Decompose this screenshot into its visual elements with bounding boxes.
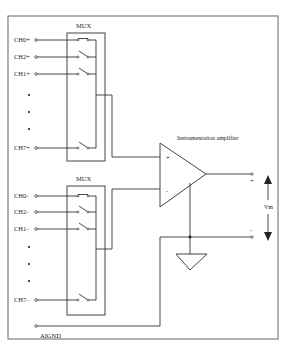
amp-plus-sign: +: [166, 154, 170, 161]
upper-mux-box: [67, 33, 105, 161]
lower-mux-label: MUX: [76, 175, 91, 182]
switch-contact-icon: [87, 211, 89, 213]
lower-mux-output-wire: [96, 189, 160, 249]
diagram-canvas: MUX CH0+ CH2+ CH1+: [0, 0, 290, 354]
switch-contact-icon: [87, 299, 89, 301]
arrow-up-icon: [264, 175, 272, 184]
switch-contact-icon: [77, 195, 79, 197]
switch-contact-icon: [77, 73, 79, 75]
upper-mux: MUX CH0+ CH2+ CH1+: [14, 22, 160, 161]
switch-contact-icon: [77, 56, 79, 58]
upper-channel-2: CH2+: [14, 51, 96, 60]
channel-label: CH0+: [14, 36, 30, 43]
switch-contact-icon: [87, 147, 89, 149]
switch-contact-icon: [87, 228, 89, 230]
channel-label: CH2-: [14, 208, 28, 215]
upper-channel-7: CH7+: [14, 142, 96, 151]
upper-mux-output-wire: [96, 95, 160, 157]
lower-channel-2: CH2-: [14, 206, 96, 215]
switch-contact-icon: [87, 195, 89, 197]
terminal-icon: [35, 39, 38, 42]
amplifier-triangle-icon: [160, 143, 206, 207]
junction-dot-icon: [189, 236, 192, 239]
terminal-icon: [35, 195, 38, 198]
ground-symbol-icon: [176, 254, 207, 270]
lower-mux: MUX CH0- CH2- CH1-: [14, 175, 160, 315]
terminal-icon: [35, 147, 38, 150]
channel-label: CH1-: [14, 225, 28, 232]
upper-ellipsis: [28, 94, 30, 130]
switch-contact-icon: [87, 73, 89, 75]
channel-label: CH1+: [14, 70, 30, 77]
instrumentation-amplifier: Instrumentation amplifier + -: [160, 135, 253, 254]
output-minus-label: -: [250, 226, 252, 233]
upper-channel-0: CH0+: [14, 36, 96, 43]
terminal-icon: [35, 211, 38, 214]
channel-label: CH0-: [14, 192, 28, 199]
switch-contact-icon: [77, 39, 79, 41]
lower-mux-box: [67, 186, 105, 315]
vm-label: Vm: [264, 204, 273, 210]
switch-contact-icon: [77, 211, 79, 213]
lower-ellipsis: [28, 246, 30, 282]
terminal-icon: [35, 299, 38, 302]
upper-mux-label: MUX: [76, 22, 91, 29]
switch-contact-icon: [87, 39, 89, 41]
switch-contact-icon: [77, 299, 79, 301]
lower-channel-7: CH7-: [14, 294, 96, 303]
aignd-wire: [37, 237, 160, 326]
arrow-down-icon: [264, 232, 272, 241]
channel-label: CH2+: [14, 53, 30, 60]
upper-channel-1: CH1+: [14, 68, 96, 77]
terminal-icon: [35, 56, 38, 59]
channel-label: CH7+: [14, 144, 30, 151]
aignd-terminal-icon: [35, 325, 38, 328]
outer-frame: [8, 16, 278, 339]
output-voltage: + - Vm: [250, 175, 273, 241]
terminal-icon: [35, 228, 38, 231]
amplifier-label: Instrumentation amplifier: [177, 135, 238, 141]
channel-label: CH7-: [14, 296, 28, 303]
output-minus-terminal-icon: [251, 236, 253, 238]
switch-contact-icon: [77, 147, 79, 149]
output-plus-terminal-icon: [251, 173, 253, 175]
switch-contact-icon: [77, 228, 79, 230]
terminal-icon: [35, 73, 38, 76]
switch-contact-icon: [87, 56, 89, 58]
amp-minus-sign: -: [166, 187, 168, 194]
lower-channel-0: CH0-: [14, 192, 96, 199]
output-plus-label: +: [250, 177, 254, 184]
aignd-label: AIGND: [40, 332, 61, 339]
lower-channel-1: CH1-: [14, 223, 96, 232]
